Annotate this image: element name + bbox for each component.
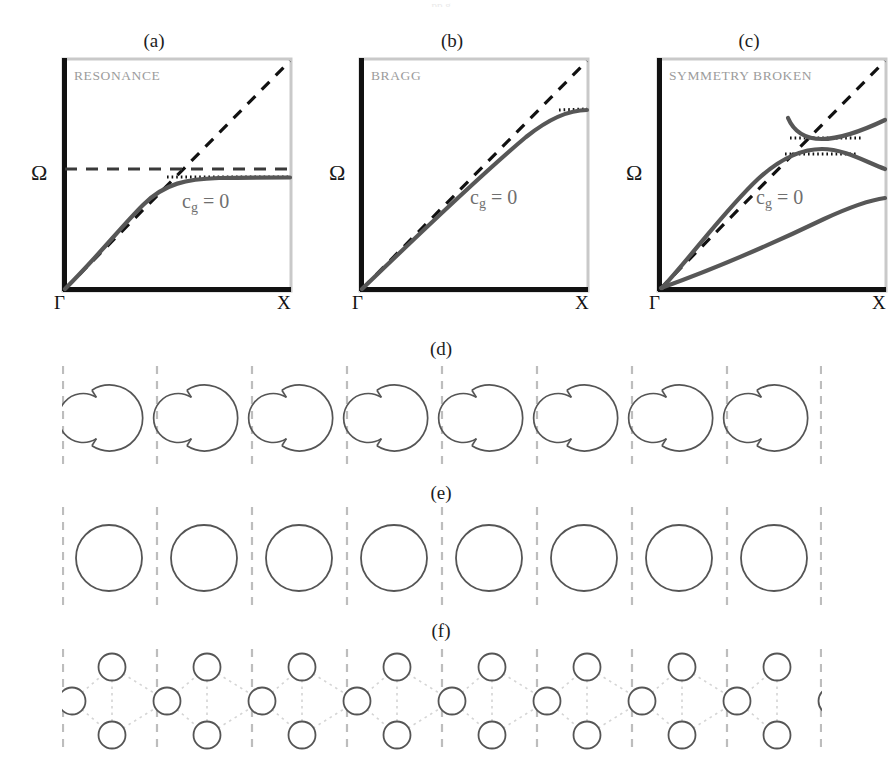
dispersion-plot-b [356, 57, 591, 295]
acoustic-branch-a [65, 178, 290, 290]
cg-equality-a: = 0 [198, 190, 229, 212]
omega-axis-label-b: Ω [329, 160, 345, 186]
regime-label-b: BRAGG [371, 68, 421, 84]
cg-annotation-c: cg = 0 [756, 186, 803, 212]
gamma-tick-b: Γ [352, 292, 363, 314]
middle-branch-c [662, 149, 885, 288]
panel-caption-c: (c) [717, 30, 781, 52]
three-circle-cluster [154, 654, 221, 749]
circle-inclusion [361, 525, 427, 591]
cg-subscript-a: g [191, 200, 198, 215]
omega-axis-label-c: Ω [626, 160, 642, 186]
cg-equality-b: = 0 [486, 186, 517, 208]
circle-inclusion [551, 525, 617, 591]
lattice-row-f [62, 645, 822, 757]
regime-label-c: SYMMETRY BROKEN [669, 68, 812, 84]
cg-symbol-c: c [756, 186, 765, 208]
gamma-tick-c: Γ [649, 292, 660, 314]
panel-caption-b: (b) [420, 30, 484, 52]
dispersion-plot-a [59, 57, 294, 295]
split-ring-resonator [439, 385, 523, 451]
three-circle-cluster [439, 654, 506, 749]
upper-branch-c [788, 118, 885, 139]
lattice-svg-e [62, 503, 822, 613]
lattice-svg-f [62, 645, 822, 757]
light-line-c [660, 61, 885, 289]
top-bleed-text: pp g [0, 0, 882, 7]
dispersion-plot-c [654, 57, 889, 295]
three-circle-cluster [534, 654, 601, 749]
three-circle-cluster [344, 654, 411, 749]
three-circle-cluster [62, 654, 126, 749]
split-ring-resonator [62, 385, 143, 451]
dispersion-panel-c [654, 57, 889, 295]
unit-cell-borders-d [63, 366, 821, 470]
circle-inclusion [266, 525, 332, 591]
panel-caption-a: (a) [122, 30, 186, 52]
three-circle-cluster [724, 654, 791, 749]
x-tick-c: X [872, 292, 886, 314]
circle-inclusion [741, 525, 807, 591]
circle-inclusion [171, 525, 237, 591]
circle-inclusion [646, 525, 712, 591]
split-ring-resonator [724, 385, 808, 451]
cg-symbol-a: c [182, 190, 191, 212]
split-ring-resonator [344, 385, 428, 451]
split-ring-resonator [249, 385, 333, 451]
gamma-tick-a: Γ [54, 292, 65, 314]
panel-caption-f: (f) [409, 620, 473, 642]
split-ring-resonator [629, 385, 713, 451]
unit-cell-borders-e [63, 507, 821, 609]
cg-symbol-b: c [470, 186, 479, 208]
panel-caption-e: (e) [409, 482, 473, 504]
lattice-svg-d [62, 362, 822, 474]
x-tick-a: X [277, 292, 291, 314]
cg-annotation-b: cg = 0 [470, 186, 517, 212]
omega-axis-label-a: Ω [31, 160, 47, 186]
circle-inclusion [456, 525, 522, 591]
cg-equality-c: = 0 [772, 186, 803, 208]
circle-inclusion [76, 525, 142, 591]
three-circle-cluster [249, 654, 316, 749]
cg-subscript-c: g [765, 196, 772, 211]
x-tick-b: X [575, 292, 589, 314]
regime-label-a: RESONANCE [74, 68, 160, 84]
split-ring-resonator [534, 385, 618, 451]
cg-annotation-a: cg = 0 [182, 190, 229, 216]
panel-caption-d: (d) [409, 338, 473, 360]
lattice-row-e [62, 503, 822, 613]
lattice-row-d [62, 362, 822, 474]
split-ring-resonator [154, 385, 238, 451]
dispersion-panel-b [356, 57, 591, 295]
dispersion-panel-a [59, 57, 294, 295]
split-ring-inclusions-d [62, 385, 808, 451]
cg-subscript-b: g [479, 196, 486, 211]
three-circle-cluster [629, 654, 696, 749]
